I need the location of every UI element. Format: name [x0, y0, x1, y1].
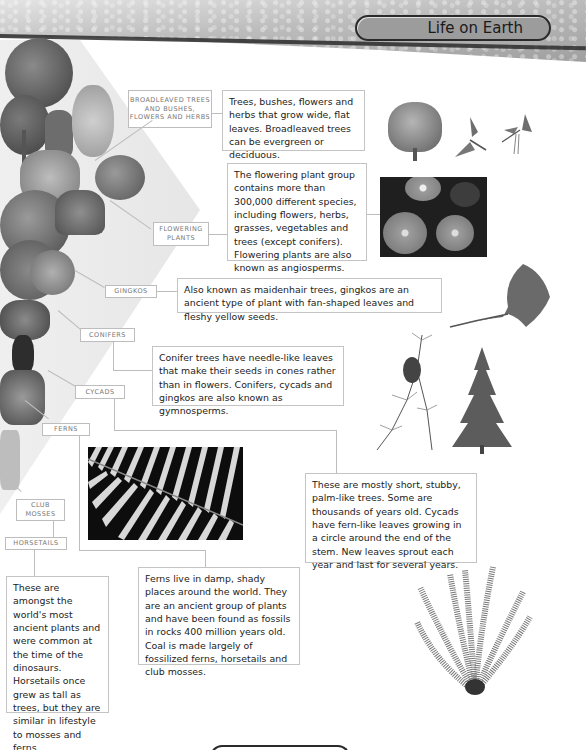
- connector: [114, 430, 336, 431]
- gerbera-flowers-photo: [380, 177, 487, 257]
- description-ferns: Ferns live in damp, shady places around …: [138, 567, 300, 665]
- fern-frond-photo: [88, 447, 243, 540]
- page-title: Life on Earth: [428, 19, 523, 37]
- connector: [367, 214, 381, 215]
- description-conifers: Conifer trees have needle-like leaves th…: [152, 346, 344, 406]
- gingko-leaf-illustration: [448, 262, 558, 337]
- leaf-sprig-illustration: [450, 112, 490, 162]
- connector: [336, 430, 337, 473]
- label-ferns: FERNS: [42, 423, 90, 436]
- label-gingkos: GINGKOS: [105, 285, 157, 298]
- page-title-pill: Life on Earth: [355, 15, 551, 41]
- connector: [114, 399, 115, 430]
- connector: [205, 550, 206, 567]
- connector: [209, 234, 227, 235]
- connector: [212, 113, 222, 114]
- label-cycads: CYCADS: [75, 385, 125, 399]
- connector: [113, 370, 153, 371]
- description-broadleaved: Trees, bushes, flowers and herbs that gr…: [222, 90, 365, 151]
- connector: [79, 436, 80, 550]
- label-broadleaved: BROADLEAVED TREES AND BUSHES, FLOWERS AN…: [128, 90, 212, 128]
- connector: [79, 550, 205, 551]
- description-flowering-plants: The flowering plant group contains more …: [227, 163, 367, 261]
- label-conifers: CONIFERS: [80, 328, 135, 342]
- connector: [113, 342, 114, 370]
- label-horsetails: HORSETAILS: [5, 537, 67, 550]
- fir-tree-illustration: [450, 345, 515, 455]
- label-club-mosses: CLUB MOSSES: [16, 499, 65, 521]
- bottom-page-tab: [210, 745, 350, 750]
- connector: [157, 291, 177, 292]
- leaf-catkin-illustration: [500, 112, 536, 157]
- connector: [53, 521, 54, 537]
- cycad-plant-illustration: [405, 562, 545, 697]
- description-horsetails: These are amongst the world's most ancie…: [6, 576, 109, 713]
- label-flowering-plants: FLOWERING PLANTS: [153, 222, 209, 246]
- connector: [34, 550, 35, 576]
- description-cycads: These are mostly short, stubby, palm-lik…: [305, 473, 477, 563]
- larch-branch-illustration: [372, 330, 442, 455]
- description-gingkos: Also known as maidenhair trees, gingkos …: [177, 278, 442, 313]
